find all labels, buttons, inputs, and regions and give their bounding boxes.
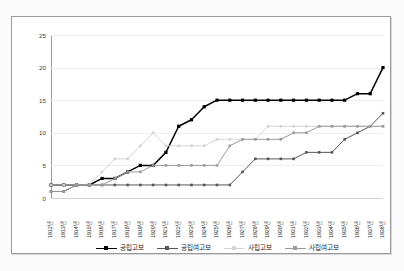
x-tick-label: 1933년	[316, 222, 322, 239]
data-point	[126, 184, 129, 187]
data-point	[50, 190, 53, 193]
data-point	[203, 164, 206, 167]
data-point	[280, 125, 283, 128]
data-point	[165, 145, 168, 148]
data-point	[382, 125, 385, 128]
x-tick-label: 1919년	[137, 222, 143, 239]
data-point	[216, 164, 219, 167]
plot-area	[51, 35, 383, 198]
x-tick-label: 1914년	[73, 222, 79, 239]
series-4	[50, 125, 385, 193]
chart-screenshot: 0510152025 1912년1913년1914년1915년1916년1917…	[0, 0, 404, 271]
data-point	[139, 184, 142, 187]
data-point	[228, 145, 231, 148]
series-line	[51, 126, 383, 185]
data-point	[50, 184, 53, 187]
y-tick-label-10: 10	[20, 129, 46, 136]
data-point	[318, 125, 321, 128]
x-tick-label: 1924년	[201, 222, 207, 239]
legend-label: 공립여고보	[181, 244, 211, 252]
data-point	[305, 99, 308, 102]
data-point	[190, 184, 193, 187]
data-point	[228, 99, 231, 102]
data-point	[190, 145, 193, 148]
y-tick-label-5: 5	[20, 162, 46, 169]
x-tick-label: 1934년	[328, 222, 334, 239]
legend-label: 공립고보	[120, 244, 144, 252]
data-point	[75, 184, 78, 187]
data-point	[254, 138, 257, 141]
data-point	[152, 184, 155, 187]
x-tick-label: 1926년	[226, 222, 232, 239]
x-tick-label: 1931년	[290, 222, 296, 239]
data-point	[343, 99, 346, 102]
data-point	[331, 125, 334, 128]
data-point	[139, 171, 142, 174]
data-point	[292, 125, 295, 128]
y-tick-label-25: 25	[20, 32, 46, 39]
data-point	[62, 190, 65, 193]
x-tick-label: 1932년	[303, 222, 309, 239]
data-point	[228, 138, 231, 141]
legend-item-1[interactable]: 공립고보	[96, 244, 144, 252]
data-point	[382, 112, 385, 115]
data-point	[139, 164, 142, 167]
data-point	[305, 132, 308, 135]
series-layer	[51, 35, 383, 198]
chart-legend: 공립고보공립여고보사립고보사립여고보	[51, 241, 383, 255]
data-point	[369, 125, 372, 128]
x-tick-label: 1930년	[277, 222, 283, 239]
data-point	[203, 105, 206, 108]
x-tick-label: 1912년	[47, 222, 53, 239]
y-tick-label-20: 20	[20, 64, 46, 71]
data-point	[369, 92, 372, 95]
series-3	[50, 125, 385, 186]
x-tick-label: 1923년	[188, 222, 194, 239]
x-tick-label: 1927년	[239, 222, 245, 239]
x-tick-label: 1920년	[150, 222, 156, 239]
legend-item-4[interactable]: 사립여고보	[285, 244, 339, 252]
data-point	[267, 125, 270, 128]
x-tick-label: 1918년	[124, 222, 130, 239]
data-point	[88, 184, 91, 187]
x-tick-label: 1928년	[252, 222, 258, 239]
x-tick-label: 1917년	[111, 222, 117, 239]
x-tick-label: 1925년	[213, 222, 219, 239]
chart-frame: 0510152025 1912년1913년1914년1915년1916년1917…	[11, 16, 391, 254]
data-point	[114, 158, 117, 161]
legend-label: 사립여고보	[309, 244, 339, 252]
data-point	[216, 184, 219, 187]
x-tick-label: 1938년	[379, 222, 385, 239]
data-point	[318, 151, 321, 154]
data-point	[267, 158, 270, 161]
data-point	[228, 184, 231, 187]
data-point	[101, 184, 104, 187]
data-point	[62, 184, 65, 187]
data-point	[356, 125, 359, 128]
series-2	[50, 112, 385, 193]
data-point	[152, 164, 155, 167]
legend-marker-icon	[224, 244, 245, 252]
legend-item-3[interactable]: 사립고보	[224, 244, 272, 252]
data-point	[331, 151, 334, 154]
data-point	[254, 158, 257, 161]
x-tick-label: 1922년	[175, 222, 181, 239]
x-tick-label: 1929년	[264, 222, 270, 239]
x-tick-label: 1916년	[98, 222, 104, 239]
data-point	[190, 164, 193, 167]
legend-marker-icon	[96, 244, 117, 252]
data-point	[139, 145, 142, 148]
data-point	[356, 92, 359, 95]
x-tick-label: 1915년	[86, 222, 92, 239]
gridline-0	[51, 198, 383, 199]
data-point	[126, 158, 129, 161]
data-point	[190, 118, 193, 121]
legend-label: 사립고보	[248, 244, 272, 252]
legend-item-2[interactable]: 공립여고보	[157, 244, 211, 252]
series-line	[51, 126, 383, 191]
data-point	[266, 99, 269, 102]
data-point	[101, 171, 104, 174]
data-point	[241, 171, 244, 174]
data-point	[356, 132, 359, 135]
data-point	[241, 138, 244, 141]
